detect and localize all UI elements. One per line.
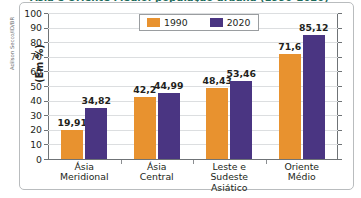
- bar-value-label-2020-0: 34,82: [76, 95, 116, 106]
- category-label-line: Asiático: [193, 183, 266, 193]
- axis-tick-l-40: [44, 101, 48, 102]
- axis-tick-l-90: [44, 28, 48, 29]
- bar-2020-3[interactable]: [303, 35, 325, 159]
- axis-tick-l-60: [44, 71, 48, 72]
- legend-item-2020[interactable]: 2020: [210, 18, 251, 27]
- axis-tick-l-50: [44, 86, 48, 87]
- axis-tick-l-30: [44, 115, 48, 116]
- y-tick-label-70: 70: [0, 52, 42, 61]
- y-tick-label-60: 60: [0, 67, 42, 76]
- y-tick-label-50: 50: [0, 82, 42, 91]
- y-tick-label-10: 10: [0, 140, 42, 149]
- category-label-3: OrienteMédio: [266, 162, 339, 183]
- y-tick-label-40: 40: [0, 96, 42, 105]
- bar-1990-0[interactable]: [61, 130, 83, 159]
- axis-tick-r-70: [338, 57, 342, 58]
- axis-tick-l-80: [44, 42, 48, 43]
- bar-2020-2[interactable]: [230, 81, 252, 159]
- category-label-0: ÁsiaMeridional: [48, 162, 121, 183]
- y-tick-label-100: 100: [0, 9, 42, 18]
- axis-tick-l-10: [44, 144, 48, 145]
- category-label-1: ÁsiaCentral: [121, 162, 194, 183]
- bar-1990-1[interactable]: [134, 97, 156, 159]
- axis-tick-r-30: [338, 115, 342, 116]
- bar-1990-2[interactable]: [206, 88, 228, 159]
- legend-swatch-1990-icon: [147, 18, 160, 27]
- axis-tick-l-20: [44, 130, 48, 131]
- y-tick-label-90: 90: [0, 23, 42, 32]
- y-tick-label-30: 30: [0, 111, 42, 120]
- bar-2020-0[interactable]: [85, 108, 107, 159]
- legend-label-2020: 2020: [227, 18, 251, 27]
- bar-2020-1[interactable]: [158, 93, 180, 159]
- axis-tick-l-0: [44, 159, 48, 160]
- axis-tick-r-100: [338, 13, 342, 14]
- category-label-line: Médio: [266, 172, 339, 182]
- y-tick-label-0: 0: [0, 155, 42, 164]
- bar-value-label-2020-3: 85,12: [294, 22, 334, 33]
- legend-item-1990[interactable]: 1990: [147, 18, 188, 27]
- axis-tick-r-80: [338, 42, 342, 43]
- category-label-2: Leste e SudesteAsiático: [193, 162, 266, 193]
- y-tick-label-20: 20: [0, 125, 42, 134]
- axis-tick-r-0: [338, 159, 342, 160]
- axis-tick-r-10: [338, 144, 342, 145]
- axis-tick-l-70: [44, 57, 48, 58]
- chart-figure: Ásia e Oriente Médio: população urbana (…: [0, 0, 361, 198]
- bar-series-container: 19,9134,8242,244,9948,4353,4671,685,12: [48, 13, 338, 159]
- y-axis-tick-labels: 1009080706050403020100: [0, 13, 42, 160]
- legend-label-1990: 1990: [164, 18, 188, 27]
- axis-tick-r-90: [338, 28, 342, 29]
- category-label-line: Meridional: [48, 172, 121, 182]
- legend-swatch-2020-icon: [210, 18, 223, 27]
- axis-tick-r-50: [338, 86, 342, 87]
- axis-tick-r-20: [338, 130, 342, 131]
- y-tick-label-80: 80: [0, 38, 42, 47]
- axis-tick-r-60: [338, 71, 342, 72]
- bar-value-label-2020-1: 44,99: [149, 80, 189, 91]
- bar-value-label-2020-2: 53,46: [221, 68, 261, 79]
- bar-1990-3[interactable]: [279, 54, 301, 159]
- chart-legend: 1990 2020: [139, 14, 259, 31]
- category-label-line: Leste e Sudeste: [193, 162, 266, 183]
- axis-tick-l-100: [44, 13, 48, 14]
- plot-area: 19,9134,8242,244,9948,4353,4671,685,12: [48, 13, 338, 159]
- axis-tick-r-40: [338, 101, 342, 102]
- category-label-line: Central: [121, 172, 194, 182]
